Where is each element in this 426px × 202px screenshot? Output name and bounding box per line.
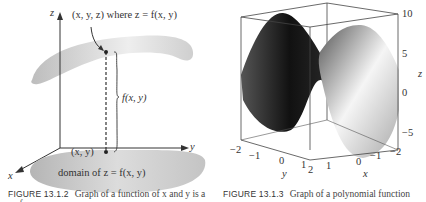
- x-tick: −2: [390, 146, 401, 157]
- x-tick: 1: [326, 160, 331, 171]
- x-tick: 0: [356, 156, 361, 167]
- y-tick: −2: [230, 144, 241, 155]
- height-label: f(x, y): [122, 92, 146, 103]
- surface-shape: [31, 36, 193, 85]
- y-tick: 0: [279, 155, 284, 166]
- caption-text: Graph of a polynomial function: [290, 189, 410, 199]
- figure-number: FIGURE 13.1.2: [8, 189, 69, 199]
- y-axis-label: y: [190, 141, 195, 152]
- z-axis-label: z: [50, 7, 54, 18]
- z-axis-label: z: [418, 68, 422, 79]
- domain-point-label: (x, y): [71, 146, 94, 157]
- y-tick: −1: [249, 150, 260, 161]
- x-axis-label: x: [8, 170, 13, 181]
- y-axis-label: y: [282, 168, 287, 179]
- x-tick: −1: [370, 150, 381, 161]
- figure-caption: FIGURE 13.1.3Graph of a polynomial funct…: [223, 189, 423, 199]
- point-on-surface-label: (x, y, z) where z = f(x, y): [72, 9, 177, 20]
- figure-polynomial-graph: 10 5 0 −5 z −2 −1 0 1 2 y 1 0 −1 −2 x FI…: [213, 0, 426, 202]
- surface-plot: [213, 0, 426, 202]
- figure-number: FIGURE 13.1.3: [223, 189, 284, 199]
- z-tick: 0: [402, 87, 407, 98]
- domain-label: domain of z = f(x, y): [58, 167, 146, 178]
- z-tick: −5: [402, 127, 413, 138]
- y-tick: 2: [308, 164, 313, 175]
- figure-caption: FIGURE 13.1.2Graph of a function of x an…: [8, 189, 213, 202]
- z-tick: 5: [402, 48, 407, 59]
- x-axis-label: x: [363, 168, 368, 179]
- y-tick: 1: [301, 159, 306, 170]
- figure-surface-graph: z (x, y, z) where z = f(x, y) f(x, y) y …: [0, 0, 213, 202]
- z-tick: 10: [402, 8, 413, 19]
